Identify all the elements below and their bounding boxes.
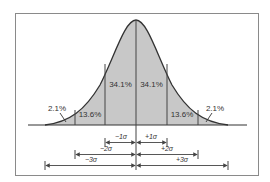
label-plus-2-sigma: +2σ: [161, 145, 174, 152]
label-minus-2-sigma: −2σ: [100, 145, 113, 152]
region-label-right-1sigma: 34.1%: [140, 80, 163, 89]
label-plus-3-sigma: +3σ: [176, 156, 189, 163]
label-minus-1-sigma: −1σ: [115, 133, 128, 140]
label-plus-1-sigma: +1σ: [145, 133, 158, 140]
normal-distribution-diagram: 34.1% 34.1% 13.6% 13.6% 2.1% 2.1% −1σ +1…: [0, 0, 270, 182]
region-label-left-tail: 2.1%: [48, 104, 66, 113]
region-label-right-2sigma: 13.6%: [171, 110, 194, 119]
region-label-right-tail: 2.1%: [206, 104, 224, 113]
region-label-left-1sigma: 34.1%: [109, 80, 132, 89]
region-label-left-2sigma: 13.6%: [79, 110, 102, 119]
label-minus-3-sigma: −3σ: [85, 156, 98, 163]
